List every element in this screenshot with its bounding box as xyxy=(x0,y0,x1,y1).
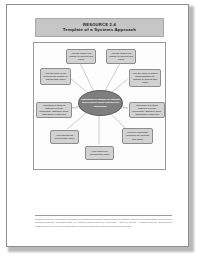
page-title: Template of a Systems Approach xyxy=(63,28,136,32)
footer-divider xyxy=(35,215,172,216)
node-label: How the community members will support t… xyxy=(123,131,152,140)
node-student-change-indicators[interactable]: Indicators of student changes (needs) kn… xyxy=(36,102,72,118)
systems-approach-diagram: Statement of change for student achievem… xyxy=(33,42,166,170)
hub-label: Statement of change for student achievem… xyxy=(79,98,122,107)
node-label: How parents will support this vision xyxy=(51,134,78,140)
node-others-support[interactable]: How others will support this vision xyxy=(85,146,114,160)
node-label: Indicators of teacher changes (needs) kn… xyxy=(130,104,164,116)
node-label: How the district will change to support … xyxy=(107,52,135,61)
node-label: How the work of the principal will chang… xyxy=(41,72,70,81)
node-district-change[interactable]: How the district will change to support … xyxy=(106,49,136,64)
node-district-administrators-change[interactable]: How the work of district administrators … xyxy=(129,69,161,87)
node-label: Indicators of student changes (needs) kn… xyxy=(37,104,71,116)
resource-title-band: RESOURCE 2.4 Template of a Systems Appro… xyxy=(35,18,164,37)
node-label: How the school will change to support th… xyxy=(67,52,95,61)
node-label: How the work of district administrators … xyxy=(130,72,160,84)
diagram-canvas: Statement of change for student achievem… xyxy=(34,43,165,169)
node-community-members-support[interactable]: How the community members will support t… xyxy=(122,128,153,144)
node-label: How others will support this vision xyxy=(86,150,113,156)
node-school-change[interactable]: How the school will change to support th… xyxy=(66,49,96,64)
copyright-notice: Reprinted from the compilation "STEPS fo… xyxy=(35,218,172,228)
central-hub-oval: Statement of change for student achievem… xyxy=(78,90,123,116)
footer-credit-block: Reprinted from the compilation "STEPS fo… xyxy=(35,215,172,228)
node-principal-work-change[interactable]: How the work of the principal will chang… xyxy=(40,68,71,85)
document-page: RESOURCE 2.4 Template of a Systems Appro… xyxy=(6,4,189,247)
node-teacher-change-indicators[interactable]: Indicators of teacher changes (needs) kn… xyxy=(129,102,165,118)
node-parents-support[interactable]: How parents will support this vision xyxy=(50,130,79,144)
page-content-area: RESOURCE 2.4 Template of a Systems Appro… xyxy=(11,9,184,242)
